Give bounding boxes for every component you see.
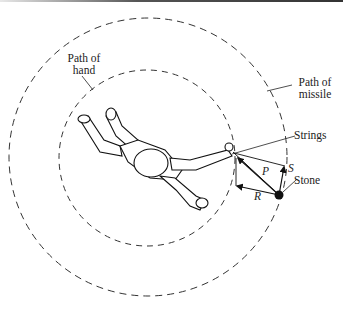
label-line: hand <box>62 64 106 76</box>
person-figure <box>78 108 233 210</box>
label-s: S <box>288 162 294 174</box>
label-p: P <box>262 165 269 177</box>
label-path-of-missile: Path of missile <box>289 76 341 100</box>
sling-diagram <box>0 0 343 314</box>
label-stone: Stone <box>294 174 320 186</box>
label-line: missile <box>289 88 341 100</box>
stone <box>275 191 284 200</box>
label-r: R <box>254 190 261 202</box>
label-path-of-hand: Path of hand <box>62 52 106 76</box>
label-line: Path of <box>289 76 341 88</box>
label-line: Path of <box>62 52 106 64</box>
label-strings: Strings <box>294 129 327 141</box>
